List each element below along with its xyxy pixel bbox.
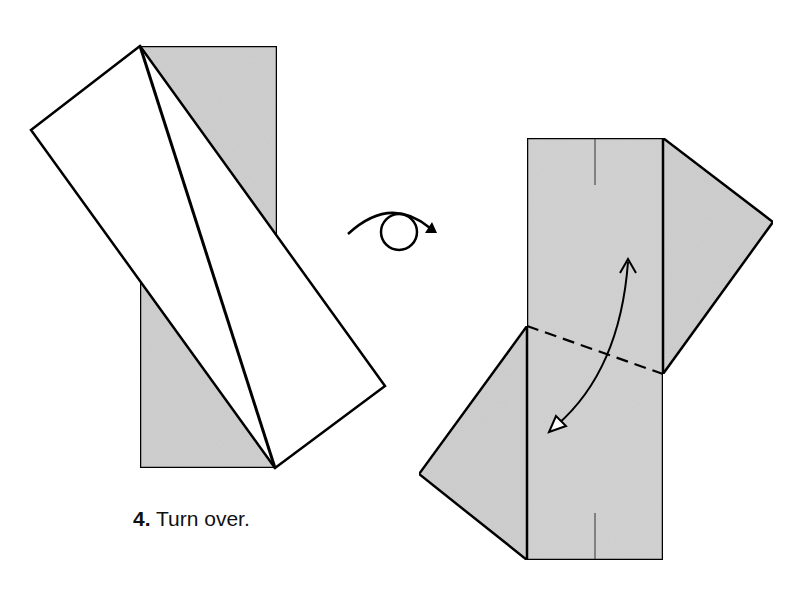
step-instruction: Turn over. xyxy=(156,507,250,530)
center-strip xyxy=(527,138,663,560)
step-number: 4. xyxy=(133,507,151,530)
step-caption: 4. Turn over. xyxy=(133,507,250,531)
turn-over-icon xyxy=(348,213,437,250)
right-flap xyxy=(663,138,773,374)
origami-diagram xyxy=(0,0,799,592)
before-model xyxy=(31,46,385,468)
after-model xyxy=(419,138,773,560)
left-flap xyxy=(419,326,527,560)
